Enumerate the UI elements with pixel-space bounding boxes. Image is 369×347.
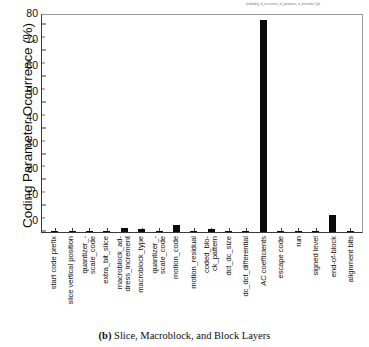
- x-tick-label-line: ck_pattern: [211, 236, 219, 273]
- x-tick-label: start code prefix: [50, 236, 58, 289]
- x-tick-label-line: macroblock_type: [136, 236, 145, 293]
- x-label-slot: dc_dct_differential: [238, 236, 256, 324]
- plot-area: 01020304050607080: [41, 14, 363, 233]
- bar: [208, 229, 215, 232]
- bar-slot: [133, 15, 150, 232]
- y-tick-label: 30: [26, 137, 42, 149]
- y-tick-label: 20: [26, 162, 42, 174]
- y-tick-label: 50: [26, 85, 42, 97]
- bar-slot: [185, 15, 202, 232]
- x-tick-label-line: scale_code: [159, 236, 167, 274]
- x-tick-label: coded_blo-ck_pattern: [204, 236, 219, 273]
- x-tick-label-line: extra_bit_slice: [101, 236, 110, 284]
- x-tick-label: end-of-block: [330, 236, 338, 277]
- caption-prefix: (b): [99, 330, 112, 341]
- bar: [103, 231, 110, 232]
- x-label-slot: slice vertical position: [63, 236, 81, 324]
- x-tick-label: macroblock_ad-dress_increment: [116, 236, 131, 291]
- x-tick-label: quantizer_-scale_code: [151, 236, 166, 274]
- x-label-slot: extra_bit_slice: [98, 236, 116, 324]
- x-tick-label-line: run: [294, 236, 303, 247]
- y-tick-label: 10: [26, 188, 42, 200]
- x-tick-label: dct_dc_size: [225, 236, 233, 276]
- x-label-slot: start code prefix: [45, 236, 63, 324]
- bar: [138, 229, 145, 232]
- bar-slot: [220, 15, 237, 232]
- x-tick-label-line: dct_dc_size: [224, 236, 233, 276]
- x-tick-label: signed level: [312, 236, 320, 276]
- x-label-slot: run: [290, 236, 308, 324]
- y-tick-label: 80: [26, 7, 42, 19]
- bar-slot: [98, 15, 115, 232]
- bar-slot: [272, 15, 289, 232]
- bar: [295, 231, 302, 232]
- x-tick-label-line: alignment bits: [346, 236, 355, 282]
- x-label-slot: motion_code: [168, 236, 186, 324]
- x-label-slot: dct_dc_size: [220, 236, 238, 324]
- x-label-slot: AC coefficients: [255, 236, 273, 324]
- bar-slot: [203, 15, 220, 232]
- bar-slot: [289, 15, 306, 232]
- bar: [312, 231, 319, 232]
- x-tick-label: dc_dct_differential: [242, 236, 250, 297]
- bar-slot: [255, 15, 272, 232]
- x-tick-label-line: end-of-block: [329, 236, 338, 277]
- x-tick-label-line: dress_increment: [124, 236, 132, 291]
- bar-slot: [342, 15, 359, 232]
- bar: [51, 231, 58, 232]
- y-tick-label: 70: [26, 33, 42, 45]
- x-label-slot: signed level: [308, 236, 326, 324]
- bar-slot: [81, 15, 98, 232]
- x-label-slot: coded_blo-ck_pattern: [203, 236, 221, 324]
- x-label-slot: macroblock_ad-dress_increment: [115, 236, 133, 324]
- x-tick-label-line: scale_code: [89, 236, 97, 274]
- x-tick-label: escape code: [277, 236, 285, 279]
- x-tick-label-line: AC coefficients: [259, 236, 268, 286]
- x-tick-label: run: [295, 236, 303, 247]
- bar: [173, 225, 180, 232]
- x-label-slot: quantizer_-scale_code: [150, 236, 168, 324]
- y-tick-label: 40: [26, 111, 42, 123]
- y-tick-label: 0: [32, 214, 42, 226]
- x-label-slot: end-of-block: [325, 236, 343, 324]
- bar: [156, 231, 163, 232]
- x-label-slot: quantizer_-scale_code: [80, 236, 98, 324]
- bar: [329, 215, 336, 232]
- x-tick-label-line: motion_residual: [189, 236, 198, 289]
- bar: [225, 231, 232, 232]
- x-tick-label-line: escape code: [276, 236, 285, 279]
- x-tick-label: motion_residual: [190, 236, 198, 289]
- x-tick-label: AC coefficients: [260, 236, 268, 286]
- x-tick-label: macroblock_type: [137, 236, 145, 293]
- x-label-slot: escape code: [273, 236, 291, 324]
- y-tick-label: 60: [26, 59, 42, 71]
- x-tick-label: quantizer_-scale_code: [81, 236, 96, 274]
- figure-caption: (b) Slice, Macroblock, and Block Layers: [0, 330, 369, 341]
- x-label-slot: alignment bits: [343, 236, 361, 324]
- bar: [190, 231, 197, 232]
- x-tick-label-line: start code prefix: [49, 236, 58, 289]
- bar-slot: [307, 15, 324, 232]
- bar-series: [42, 15, 362, 232]
- x-tick-label: alignment bits: [347, 236, 355, 282]
- x-tick-label-line: dc_dct_differential: [241, 236, 250, 297]
- x-tick-label: motion_code: [172, 236, 180, 279]
- x-label-slot: motion_residual: [185, 236, 203, 324]
- bar-slot: [168, 15, 185, 232]
- bar-slot: [324, 15, 341, 232]
- bar: [86, 231, 93, 232]
- bar: [347, 231, 354, 232]
- bar-slot: [150, 15, 167, 232]
- bar-slot: [116, 15, 133, 232]
- x-tick-label-line: slice vertical position: [66, 236, 75, 305]
- caption-text: Slice, Macroblock, and Block Layers: [114, 330, 270, 341]
- x-tick-label: extra_bit_slice: [102, 236, 110, 284]
- x-tick-label-line: signed level: [311, 236, 320, 276]
- x-tick-label: slice vertical position: [67, 236, 75, 305]
- x-axis-labels: start code prefixslice vertical position…: [41, 236, 363, 324]
- bar: [260, 20, 267, 232]
- bar: [277, 231, 284, 232]
- x-label-slot: macroblock_type: [133, 236, 151, 324]
- bar-slot: [63, 15, 80, 232]
- bar-slot: [237, 15, 254, 232]
